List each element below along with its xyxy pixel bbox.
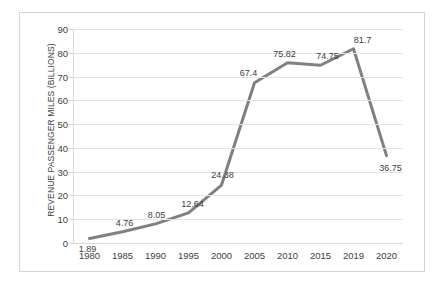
x-axis-tick-label: 2020 [364, 250, 410, 261]
gridline [73, 172, 403, 173]
y-axis-tick-label: 70 [40, 71, 68, 82]
data-point-label: 36.75 [379, 163, 402, 173]
gridline [73, 53, 403, 54]
data-point-label: 12.64 [181, 199, 204, 209]
y-axis-tick-mark [69, 124, 73, 125]
y-axis-tick-mark [69, 195, 73, 196]
data-point-label: 75.82 [273, 49, 296, 59]
y-axis-tick-mark [69, 219, 73, 220]
gridline [73, 243, 403, 244]
data-point-label: 4.76 [116, 218, 134, 228]
data-point-label: 67.4 [240, 68, 258, 78]
gridline [73, 195, 403, 196]
gridline [73, 148, 403, 149]
gridline [73, 100, 403, 101]
y-axis-tick-label: 90 [40, 24, 68, 35]
y-axis-tick-label: 0 [40, 238, 68, 249]
y-axis-tick-mark [69, 77, 73, 78]
gridline [73, 124, 403, 125]
y-axis-tick-mark [69, 243, 73, 244]
y-axis-tick-label: 20 [40, 190, 68, 201]
data-point-label: 81.7 [354, 35, 372, 45]
x-axis-tick-labels: 1980198519901995200020052010201520192020 [73, 250, 403, 266]
y-axis-tick-label: 40 [40, 142, 68, 153]
gridline [73, 77, 403, 78]
data-point-label: 74.75 [316, 51, 339, 61]
y-axis-tick-label: 50 [40, 119, 68, 130]
y-axis-tick-mark [69, 53, 73, 54]
y-axis-tick-mark [69, 148, 73, 149]
y-axis-tick-mark [69, 100, 73, 101]
y-axis-tick-mark [69, 172, 73, 173]
y-axis-tick-label: 10 [40, 214, 68, 225]
line-series-svg [73, 29, 403, 243]
chart-frame: REVENUE PASSENGER MILES (BILLIONS) 01020… [19, 12, 425, 272]
y-axis-tick-mark [69, 29, 73, 30]
data-point-label: 8.05 [148, 210, 166, 220]
gridline [73, 29, 403, 30]
chart-container: REVENUE PASSENGER MILES (BILLIONS) 01020… [0, 0, 445, 290]
data-point-label: 24.38 [211, 170, 234, 180]
plot-area: 1.894.768.0512.6424.3867.475.8274.7581.7… [73, 29, 403, 243]
y-axis-tick-label: 30 [40, 166, 68, 177]
y-axis-tick-label: 80 [40, 47, 68, 58]
y-axis-tick-label: 60 [40, 95, 68, 106]
y-axis-tick-labels: 0102030405060708090 [38, 29, 68, 243]
